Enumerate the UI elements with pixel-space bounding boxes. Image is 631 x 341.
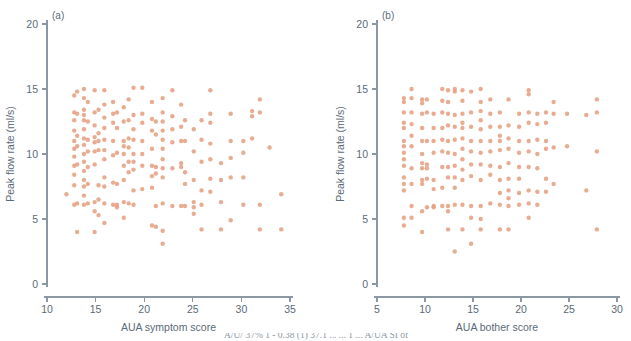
data-point [440, 149, 444, 153]
data-point [160, 166, 164, 170]
data-point [535, 112, 539, 116]
data-point [82, 143, 86, 147]
data-point-group [402, 87, 599, 254]
data-point [453, 125, 457, 129]
data-point [160, 110, 164, 114]
scatter-panel-b: 0510152051015202530AUA bother scorePeak … [316, 0, 631, 341]
data-point [96, 131, 100, 135]
data-point [431, 151, 435, 155]
data-point [86, 119, 90, 123]
data-point [160, 229, 164, 233]
data-point [131, 203, 135, 207]
data-point [219, 227, 223, 231]
data-point [150, 174, 154, 178]
data-point [170, 140, 174, 144]
data-point [126, 118, 130, 122]
data-point [453, 138, 457, 142]
data-point [488, 164, 492, 168]
data-point [82, 160, 86, 164]
data-point [154, 204, 158, 208]
data-point [402, 216, 406, 220]
data-point [126, 170, 130, 174]
data-point [122, 105, 126, 109]
data-point [140, 164, 144, 168]
data-point [517, 151, 521, 155]
data-point [460, 112, 464, 116]
data-point [179, 161, 183, 165]
y-tick-label: 20 [356, 18, 368, 30]
data-point [122, 144, 126, 148]
data-point [229, 175, 233, 179]
data-point [86, 182, 90, 186]
data-point [506, 161, 510, 165]
data-point [517, 125, 521, 129]
data-point [506, 123, 510, 127]
data-point [440, 186, 444, 190]
data-point [402, 144, 406, 148]
data-point [409, 166, 413, 170]
y-tick-label: 10 [356, 148, 368, 160]
data-point [154, 165, 158, 169]
x-tick-label: 35 [284, 303, 296, 315]
data-point [229, 156, 233, 160]
data-point [199, 138, 203, 142]
x-tick-label: 15 [467, 303, 479, 315]
data-point [478, 162, 482, 166]
data-point [140, 139, 144, 143]
data-point [86, 100, 90, 104]
data-point [526, 216, 530, 220]
data-point [420, 182, 424, 186]
data-point [199, 203, 203, 207]
data-point [551, 112, 555, 116]
data-point [544, 190, 548, 194]
data-point [96, 183, 100, 187]
data-point [102, 115, 106, 119]
data-point [453, 175, 457, 179]
data-point [258, 97, 262, 101]
data-point [82, 108, 86, 112]
data-point [160, 147, 164, 151]
data-point [488, 125, 492, 129]
data-point [258, 110, 262, 114]
data-point [111, 139, 115, 143]
data-point [111, 180, 115, 184]
data-point [402, 139, 406, 143]
data-point [402, 157, 406, 161]
data-point [506, 227, 510, 231]
data-point [92, 230, 96, 234]
data-point [219, 161, 223, 165]
data-point [478, 217, 482, 221]
data-point [192, 200, 196, 204]
data-point [160, 119, 164, 123]
x-tick-label: 25 [563, 303, 575, 315]
data-point [75, 230, 79, 234]
data-point [469, 242, 473, 246]
y-axis-title: Peak flow rate (ml/s) [4, 106, 16, 202]
data-point [75, 144, 79, 148]
data-point [535, 152, 539, 156]
data-point [154, 119, 158, 123]
data-point [498, 125, 502, 129]
data-point [478, 127, 482, 131]
data-point [498, 134, 502, 138]
data-point [150, 223, 154, 227]
data-point [460, 126, 464, 130]
x-tick-label: 15 [90, 303, 102, 315]
data-point [111, 121, 115, 125]
data-point [478, 87, 482, 91]
data-point [506, 204, 510, 208]
data-point [431, 126, 435, 130]
data-point [92, 123, 96, 127]
data-point [160, 157, 164, 161]
data-point [229, 218, 233, 222]
data-point [82, 136, 86, 140]
data-point [219, 200, 223, 204]
data-point [72, 118, 76, 122]
y-tick-label: 15 [356, 83, 368, 95]
data-point [431, 187, 435, 191]
data-point [102, 201, 106, 205]
data-point [535, 166, 539, 170]
scatter-plot-b: 0510152051015202530AUA bother scorePeak … [316, 0, 631, 341]
data-point [420, 112, 424, 116]
panel-label: (b) [382, 10, 394, 21]
